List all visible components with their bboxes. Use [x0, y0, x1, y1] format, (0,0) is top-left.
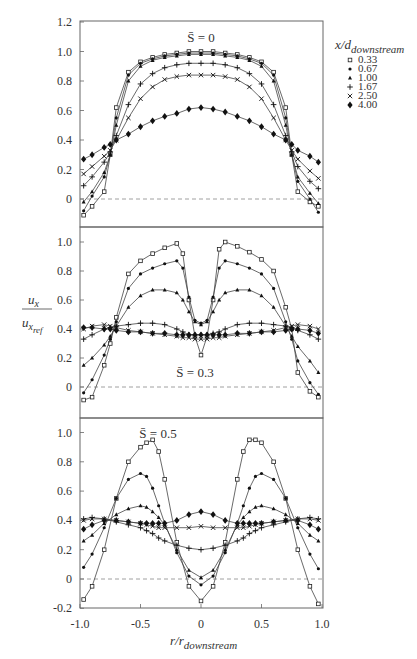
legend-item-4.00: 4.00 [347, 98, 377, 110]
y-tick-label: 0 [66, 572, 72, 586]
svg-text:ux: ux [28, 292, 40, 309]
y-tick-label: 0.2 [57, 351, 72, 365]
svg-text:uxref: uxref [22, 315, 44, 335]
x-tick-label: 0 [198, 617, 204, 631]
y-tick-label: 0.4 [57, 513, 72, 527]
y-tick-label: 0.8 [57, 264, 72, 278]
x-tick-label: -1.0 [71, 617, 90, 631]
y-tick-label: 0.4 [57, 322, 72, 336]
y-tick-label: 0.4 [57, 133, 72, 147]
y-tick-label: 0.2 [57, 163, 72, 177]
chart-figure: 1.21.00.80.60.40.20S̄ = 01.00.80.60.40.2… [0, 0, 417, 659]
y-tick-label: 1.0 [57, 235, 72, 249]
y-tick-label: 0.6 [57, 293, 72, 307]
y-tick-label: 1.0 [57, 426, 72, 440]
chart-panels: 1.21.00.80.60.40.20S̄ = 01.00.80.60.40.2… [53, 15, 330, 631]
y-tick-label: 0.2 [57, 543, 72, 557]
panel-annotation: S̄ = 0.3 [176, 365, 213, 380]
panel-1: 1.21.00.80.60.40.20S̄ = 0 [57, 15, 323, 227]
y-tick-label: 0 [66, 380, 72, 394]
panel-3: 1.00.80.60.40.20-0.2-1.0-0.500.51.0S̄ = … [53, 418, 330, 631]
y-axis-label: ux uxref [22, 292, 52, 335]
legend: x/ddownstream0.330.671.001.672.504.00 [334, 37, 404, 110]
y-tick-label: 0.8 [57, 455, 72, 469]
y-tick-label: 0 [66, 192, 72, 206]
y-tick-label: 0.6 [57, 484, 72, 498]
svg-text:r/rdownstream: r/rdownstream [170, 633, 237, 651]
y-tick-label: 0.6 [57, 104, 72, 118]
panel-annotation: S̄ = 0 [187, 30, 215, 45]
panel-2: 1.00.80.60.40.20S̄ = 0.3 [57, 227, 323, 418]
y-tick-label: -0.2 [53, 601, 72, 615]
series-4.00 [81, 508, 321, 532]
panel-annotation: S̄ = 0.5 [139, 426, 176, 441]
x-axis-label: r/rdownstream [170, 633, 237, 651]
series-0.67 [82, 472, 320, 587]
y-tick-label: 0.8 [57, 74, 72, 88]
y-tick-label: 1.2 [57, 15, 72, 29]
x-tick-label: 0.5 [254, 617, 269, 631]
x-tick-label: -0.5 [131, 617, 150, 631]
y-tick-label: 1.0 [57, 45, 72, 59]
svg-text:4.00: 4.00 [358, 98, 378, 110]
x-tick-label: 1.0 [315, 617, 330, 631]
